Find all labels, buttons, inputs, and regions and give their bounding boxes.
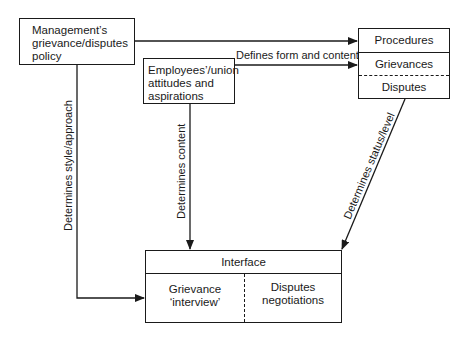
employees-line-3: aspirations — [148, 90, 234, 103]
interface-box: Interface Grievance ‘interview’ Disputes… — [145, 250, 342, 323]
interface-grievance-cell: Grievance ‘interview’ — [146, 283, 244, 309]
procedures-dashed-divider — [359, 75, 449, 76]
edge-procedures-interface — [342, 99, 405, 249]
procedures-divider — [359, 52, 449, 53]
edge-label-style-approach: Determines style/approach — [62, 100, 74, 231]
edge-management-interface — [77, 65, 144, 298]
employees-attitudes-box: Employees’/union attitudes and aspiratio… — [143, 58, 235, 104]
management-line-2: grievance/disputes — [32, 37, 134, 50]
edge-label-determines-content: Determines content — [175, 124, 187, 219]
grievance-line-1: Grievance — [146, 283, 244, 296]
grievance-line-2: ‘interview’ — [146, 296, 244, 309]
employees-line-2: attitudes and — [148, 77, 234, 90]
disputes-line-2: negotiations — [245, 294, 341, 307]
procedures-box: Procedures Grievances Disputes — [358, 28, 450, 99]
procedures-title: Procedures — [359, 34, 449, 46]
interface-disputes-cell: Disputes negotiations — [245, 281, 341, 307]
procedures-disputes: Disputes — [359, 81, 449, 93]
management-policy-box: Management’s grievance/disputes policy — [19, 18, 135, 65]
edge-label-defines-form: Defines form and content — [236, 49, 359, 61]
employees-line-1: Employees’/union — [148, 64, 234, 77]
management-line-1: Management’s — [32, 24, 134, 37]
management-line-3: policy — [32, 50, 134, 63]
interface-title: Interface — [146, 256, 341, 268]
disputes-line-1: Disputes — [245, 281, 341, 294]
procedures-grievances: Grievances — [359, 58, 449, 70]
